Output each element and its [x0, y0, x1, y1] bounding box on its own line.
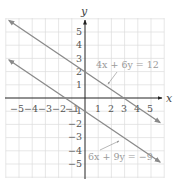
x-tick: 5: [147, 103, 153, 114]
leader-line-2: [100, 141, 119, 150]
y-axis-label: y: [80, 5, 88, 18]
y-tick: −3: [68, 131, 82, 142]
equation-label-2: 6x + 9y = −9: [88, 151, 153, 162]
x-tick: 1: [95, 103, 101, 114]
x-tick: 2: [108, 103, 114, 114]
y-tick: 4: [76, 39, 82, 50]
y-tick: −4: [68, 145, 82, 156]
y-tick: 1: [76, 79, 82, 90]
coordinate-plane: x y −5 −4 −3 −2 −1 1 2 3 4 5 5 4 3 2 1 −…: [0, 0, 178, 183]
x-tick: −2: [52, 103, 66, 114]
y-tick: 5: [76, 26, 82, 37]
y-tick: −5: [68, 158, 82, 169]
x-tick: 3: [121, 103, 127, 114]
y-tick: 3: [76, 53, 82, 64]
leader-line-1: [108, 72, 117, 84]
x-tick: −5: [10, 103, 24, 114]
x-tick: −4: [24, 103, 38, 114]
y-tick: −2: [68, 118, 82, 129]
x-tick: −3: [38, 103, 52, 114]
equation-label-1: 4x + 6y = 12: [96, 59, 159, 70]
x-axis-label: x: [166, 92, 173, 105]
y-tick: −1: [68, 105, 82, 116]
